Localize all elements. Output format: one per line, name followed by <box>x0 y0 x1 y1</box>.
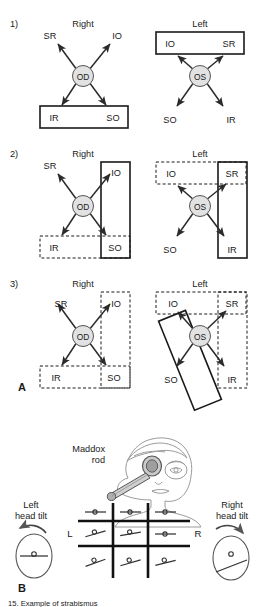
row-2-left-muscle-bottomleft: SO <box>163 245 176 255</box>
panel-b-label: B <box>18 582 26 594</box>
row-3-right-muscle-bottomleft: IR <box>51 373 61 383</box>
figure-caption: 15. Example of strabismus <box>8 599 98 607</box>
grid-right-label: R <box>195 528 202 539</box>
row-1-right-eye-diagram: Right OD SR IO IR SO <box>40 19 128 128</box>
row-2-right-muscle-bottomleft: IR <box>49 243 59 253</box>
right-head-tilt-line1: Right <box>221 500 243 510</box>
patient-face-illustration <box>107 438 201 527</box>
grid-cell-r1c2 <box>155 532 176 536</box>
row-2: 2) Right OD SR IO IR SO Left IO SR <box>10 149 247 258</box>
arrow-so <box>177 342 194 366</box>
row-3-left-eye-code: OS <box>194 332 207 342</box>
arrow-sr <box>206 184 226 200</box>
row-1-left-muscle-bottomright: IR <box>226 115 236 125</box>
row-1-left-muscle-topleft: IO <box>165 39 175 49</box>
right-tilt-line-marker <box>216 560 247 572</box>
row-2-left-eye-code: OS <box>194 202 207 212</box>
row-3-right-muscle-bottomright: SO <box>107 373 120 383</box>
left-head-tilt-group: Left head tilt <box>15 500 52 578</box>
maddox-rod-label-line1: Maddox <box>72 444 105 454</box>
row-number-1: 1) <box>10 19 18 29</box>
row-2-left-eye-label: Left <box>192 149 208 159</box>
row-3-left-muscle-bottomright: IR <box>227 375 237 385</box>
row-2-right-eye-code: OD <box>77 202 90 212</box>
row-2-right-muscle-topright: IO <box>111 168 121 178</box>
arrow-sr <box>206 56 223 70</box>
grid-cell-r0c0 <box>85 510 106 514</box>
row-3-right-eye-code: OD <box>77 332 90 342</box>
grid-cell-r0c1 <box>120 510 141 514</box>
panel-b: Maddox rod Left head <box>15 438 249 594</box>
arrow-ir <box>206 82 223 106</box>
arrow-io <box>89 174 110 200</box>
right-tilt-head-icon <box>213 536 249 580</box>
row-3-left-eye-diagram: Left IO SR OS SO IR <box>156 279 266 410</box>
arrow-io <box>89 304 110 330</box>
right-head-tilt-group: Right head tilt <box>213 500 249 580</box>
arrow-so <box>177 82 194 106</box>
arrow-io <box>178 56 194 70</box>
arrow-ir <box>62 342 77 365</box>
row-1-right-muscle-topleft: SR <box>44 31 57 41</box>
row-2-left-eye-diagram: Left IO SR OS SO IR <box>156 149 247 258</box>
arrow-io <box>89 44 110 70</box>
left-head-tilt-line1: Left <box>23 500 39 510</box>
row-1-left-muscle-topright: SR <box>223 39 236 49</box>
row-1-left-eye-code: OS <box>194 72 207 82</box>
arrow-so <box>89 82 106 105</box>
maddox-rod-label-line2: rod <box>92 455 105 465</box>
row-3-left-eye-label: Left <box>192 279 208 289</box>
arrow-so <box>177 212 194 236</box>
grid-cell-r1c1 <box>119 528 140 536</box>
figure-root: 1) Right OD SR IO IR SO Left IO SR <box>0 0 266 607</box>
arrow-ir <box>206 342 224 366</box>
row-2-right-eye-label: Right <box>72 149 94 159</box>
row-1: 1) Right OD SR IO IR SO Left IO SR <box>10 19 244 128</box>
maddox-rod-device <box>107 456 161 501</box>
row-1-right-muscle-bottomleft: IR <box>49 113 59 123</box>
row-1-right-muscle-bottomright: SO <box>106 113 119 123</box>
arrow-so <box>89 212 106 235</box>
arrow-io <box>178 312 194 330</box>
row-1-left-eye-diagram: Left IO SR OS SO IR <box>156 19 244 125</box>
arrow-sr <box>58 174 77 200</box>
row-3-right-eye-label: Right <box>72 279 94 289</box>
row-3-left-muscle-topright: SR <box>226 299 239 309</box>
grid-cell-r2c2 <box>154 555 176 565</box>
grid-left-label: L <box>67 528 73 539</box>
row-3-right-muscle-topright: IO <box>111 299 121 309</box>
left-head-tilt-line2: head tilt <box>15 511 48 521</box>
arrow-sr <box>58 44 77 70</box>
grid-cell-r1c0 <box>84 527 105 537</box>
arrow-io <box>178 186 194 200</box>
row-1-right-muscle-topright: IO <box>112 31 122 41</box>
left-tilt-arrow-icon <box>20 525 46 533</box>
arrow-ir <box>62 82 77 105</box>
row-1-left-muscle-bottomleft: SO <box>163 115 176 125</box>
grid-cell-r2c1 <box>119 555 141 566</box>
row-2-right-eye-diagram: Right OD SR IO IR SO <box>40 149 130 258</box>
row-2-right-muscle-bottomright: SO <box>108 243 121 253</box>
arrow-ir <box>62 212 77 235</box>
row-2-left-muscle-bottomright: IR <box>227 245 237 255</box>
row-1-right-eye-code: OD <box>77 72 90 82</box>
row-1-right-eye-label: Right <box>72 19 94 29</box>
right-head-tilt-line2: head tilt <box>216 511 249 521</box>
row-3-left-muscle-bottomleft: SO <box>164 375 177 385</box>
maddox-rod-response-grid: L R <box>67 503 201 578</box>
grid-cell-r0c2 <box>155 510 176 514</box>
row-number-2: 2) <box>10 149 18 159</box>
arrow-ir <box>206 212 224 236</box>
row-3-right-muscle-topleft: SR <box>55 299 68 309</box>
grid-cell-r2c0 <box>84 554 105 566</box>
row-number-3: 3) <box>10 279 18 289</box>
panel-a-label: A <box>18 381 26 393</box>
arrow-so <box>89 342 106 365</box>
right-tilt-dot <box>229 552 234 557</box>
row-3: 3) Right OD SR IO IR SO Left IO SR <box>10 279 266 410</box>
row-2-left-muscle-topleft: IO <box>166 169 176 179</box>
row-3-left-muscle-topleft: IO <box>168 299 178 309</box>
row-1-left-eye-label: Left <box>192 19 208 29</box>
right-tilt-arrow-icon <box>216 526 243 533</box>
row-2-right-muscle-topleft: SR <box>44 161 57 171</box>
